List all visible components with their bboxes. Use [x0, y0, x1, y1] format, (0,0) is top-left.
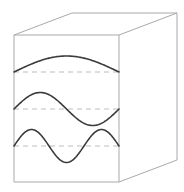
box-outline: [14, 13, 177, 182]
standing-wave-1: [14, 56, 119, 72]
standing-waves-box-diagram: [0, 0, 184, 192]
box-top-face: [14, 13, 177, 35]
standing-wave-3: [14, 130, 119, 163]
box-side-face: [119, 13, 177, 182]
waves-group: [14, 56, 119, 163]
standing-wave-2: [14, 93, 119, 126]
